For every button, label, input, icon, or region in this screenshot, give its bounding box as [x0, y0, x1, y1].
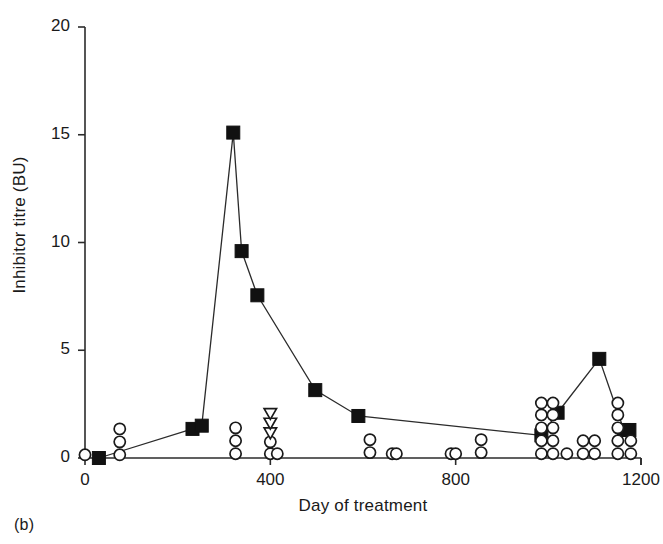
data-point-circle — [476, 434, 487, 445]
data-point-circle — [547, 409, 558, 420]
x-axis-title: Day of treatment — [85, 496, 641, 516]
y-tick-label: 0 — [30, 447, 70, 467]
data-point-circle — [547, 397, 558, 408]
data-point-circle — [536, 409, 547, 420]
data-point-circle — [547, 422, 558, 433]
data-point-square — [309, 384, 322, 397]
data-point-circle — [114, 423, 125, 434]
data-point-circle — [272, 448, 283, 459]
data-point-circle — [536, 422, 547, 433]
data-point-circle — [114, 436, 125, 447]
data-point-circle — [230, 448, 241, 459]
data-point-circle — [547, 448, 558, 459]
data-point-circle — [612, 397, 623, 408]
figure-panel: Inhibitor titre (BU) 05101520 0400800120… — [0, 0, 663, 544]
panel-caption: (b) — [14, 516, 34, 534]
y-tick-label: 20 — [30, 16, 70, 36]
data-point-circle — [625, 435, 636, 446]
data-point-circle — [612, 409, 623, 420]
data-point-circle — [577, 435, 588, 446]
data-point-square — [195, 419, 208, 432]
x-tick-label: 1200 — [611, 470, 663, 490]
data-point-circle — [230, 435, 241, 446]
data-point-circle — [589, 448, 600, 459]
data-point-circle — [536, 435, 547, 446]
data-point-circle — [547, 435, 558, 446]
data-point-circle — [536, 448, 547, 459]
data-point-square — [352, 409, 365, 422]
data-point-circle — [612, 435, 623, 446]
y-tick-label: 10 — [30, 232, 70, 252]
x-tick-label: 400 — [240, 470, 300, 490]
y-tick-label: 5 — [30, 339, 70, 359]
data-point-circle — [364, 434, 375, 445]
data-point-circle — [589, 435, 600, 446]
data-point-circle — [561, 448, 572, 459]
data-point-square — [92, 452, 105, 465]
chart-series-markers — [79, 126, 636, 464]
data-point-circle — [612, 448, 623, 459]
data-point-circle — [450, 448, 461, 459]
data-point-circle — [476, 447, 487, 458]
data-point-circle — [612, 422, 623, 433]
data-point-circle — [114, 449, 125, 460]
data-point-circle — [364, 447, 375, 458]
data-point-circle — [79, 449, 90, 460]
data-point-circle — [230, 422, 241, 433]
data-point-square — [227, 126, 240, 139]
y-tick-label: 15 — [30, 124, 70, 144]
x-tick-label: 800 — [426, 470, 486, 490]
data-point-circle — [536, 397, 547, 408]
data-point-circle — [577, 448, 588, 459]
data-point-circle — [391, 448, 402, 459]
data-point-square — [251, 289, 264, 302]
data-point-square — [593, 352, 606, 365]
data-point-square — [235, 245, 248, 258]
data-point-circle — [625, 448, 636, 459]
x-tick-label: 0 — [55, 470, 115, 490]
chart-plot-area — [0, 0, 663, 544]
